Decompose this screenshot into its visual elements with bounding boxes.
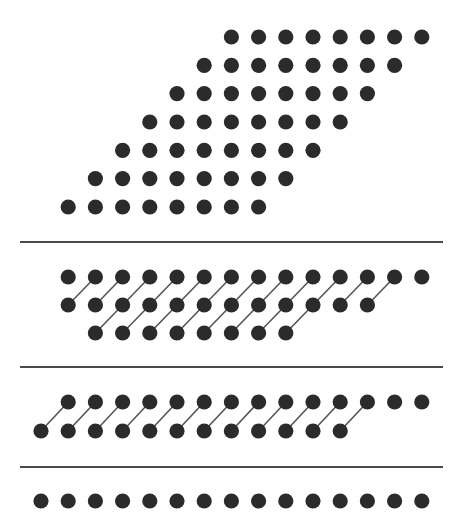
dot <box>333 423 348 438</box>
dot <box>142 269 157 284</box>
dot <box>251 143 266 158</box>
dot <box>305 423 320 438</box>
dot <box>251 493 266 508</box>
dot <box>333 86 348 101</box>
dot <box>224 297 239 312</box>
dot <box>142 114 157 129</box>
dot <box>61 493 76 508</box>
section-parallelogram-array <box>61 29 430 214</box>
dot <box>305 297 320 312</box>
dot <box>224 58 239 73</box>
dot <box>224 394 239 409</box>
dot <box>251 269 266 284</box>
dot <box>333 269 348 284</box>
dot <box>333 394 348 409</box>
dot <box>305 269 320 284</box>
dot <box>251 297 266 312</box>
dot <box>278 394 293 409</box>
dot <box>251 29 266 44</box>
dot <box>224 493 239 508</box>
dot <box>305 29 320 44</box>
dot <box>88 269 103 284</box>
dot <box>278 325 293 340</box>
dot <box>115 394 130 409</box>
dot <box>414 29 429 44</box>
dot <box>61 423 76 438</box>
dot <box>169 143 184 158</box>
dot <box>251 58 266 73</box>
dot <box>115 297 130 312</box>
dot <box>197 171 212 186</box>
dot <box>251 171 266 186</box>
dot <box>169 86 184 101</box>
dot <box>61 199 76 214</box>
dot <box>333 297 348 312</box>
dot <box>360 29 375 44</box>
dot <box>169 423 184 438</box>
dot <box>115 143 130 158</box>
dot <box>197 58 212 73</box>
dot <box>360 297 375 312</box>
dot <box>251 325 266 340</box>
dot <box>197 394 212 409</box>
dot <box>278 493 293 508</box>
dot <box>360 394 375 409</box>
dot <box>333 114 348 129</box>
dot <box>169 114 184 129</box>
dot <box>414 394 429 409</box>
dot <box>115 171 130 186</box>
dot <box>88 493 103 508</box>
dot <box>115 269 130 284</box>
dot <box>115 325 130 340</box>
dot <box>142 423 157 438</box>
dot <box>88 297 103 312</box>
dot <box>197 297 212 312</box>
dot <box>414 269 429 284</box>
dot <box>142 297 157 312</box>
dot <box>61 394 76 409</box>
dot <box>387 269 402 284</box>
dot <box>197 86 212 101</box>
dot <box>88 171 103 186</box>
dot <box>360 58 375 73</box>
dot <box>197 269 212 284</box>
dot <box>33 423 48 438</box>
dot <box>169 171 184 186</box>
dot <box>305 143 320 158</box>
dot <box>387 493 402 508</box>
section-three-row-merge <box>61 269 430 340</box>
dot <box>142 199 157 214</box>
dot <box>33 493 48 508</box>
dot <box>224 171 239 186</box>
dot <box>197 114 212 129</box>
dot <box>278 58 293 73</box>
dot <box>251 199 266 214</box>
dot <box>278 269 293 284</box>
dot <box>278 143 293 158</box>
dot <box>251 423 266 438</box>
dot <box>224 325 239 340</box>
dot <box>169 297 184 312</box>
dot <box>224 143 239 158</box>
dot <box>333 493 348 508</box>
dot <box>305 58 320 73</box>
section-single-row-result <box>33 493 429 508</box>
dot <box>61 297 76 312</box>
dot-array-diagram <box>0 0 468 528</box>
dot <box>278 171 293 186</box>
dot <box>414 493 429 508</box>
dot <box>360 86 375 101</box>
dot <box>142 394 157 409</box>
dot <box>115 199 130 214</box>
dot <box>169 493 184 508</box>
dot <box>305 114 320 129</box>
dot <box>88 199 103 214</box>
dot <box>278 29 293 44</box>
dot <box>169 394 184 409</box>
dot <box>169 199 184 214</box>
dot <box>387 58 402 73</box>
dot <box>360 493 375 508</box>
dot <box>224 29 239 44</box>
dot <box>224 423 239 438</box>
dot <box>278 114 293 129</box>
